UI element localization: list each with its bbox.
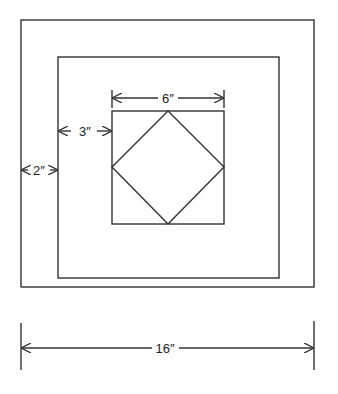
inner-square xyxy=(112,111,224,224)
dimension-2in: 2″ xyxy=(22,163,57,178)
outer-square xyxy=(21,20,314,287)
dimension-16in: 16″ xyxy=(21,321,314,370)
dimension-3in: 3″ xyxy=(59,124,111,139)
dimension-3in-label: 3″ xyxy=(79,124,91,139)
dimension-6in-label: 6″ xyxy=(162,91,174,106)
dimension-6in: 6″ xyxy=(112,90,224,108)
quilt-block-diagram: 6″ 3″ 2″ 16″ xyxy=(0,0,338,394)
dimension-16in-label: 16″ xyxy=(155,341,174,356)
dimension-2in-label: 2″ xyxy=(33,163,45,178)
inner-diamond xyxy=(112,111,224,224)
